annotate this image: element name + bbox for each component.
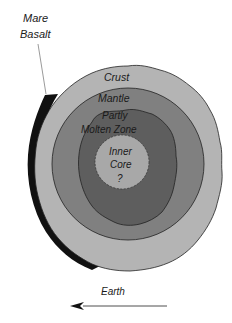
partly-molten-label-line2: Molten Zone <box>81 124 137 135</box>
inner-core-label-line1: Inner <box>109 146 132 157</box>
mare-basalt-leader-line <box>38 44 46 94</box>
mare-basalt-label-line1: Mare <box>23 12 48 24</box>
earth-label: Earth <box>101 286 125 297</box>
mantle-label: Mantle <box>98 92 130 104</box>
inner-core-label-line3: ? <box>117 173 123 184</box>
partly-molten-label-line1: Partly <box>102 110 129 121</box>
earth-direction-arrow-icon <box>70 302 167 310</box>
inner-core-label-line2: Core <box>110 159 132 170</box>
moon-interior-diagram: Mare Basalt Crust Mantle Partly Molten Z… <box>0 0 232 323</box>
crust-label: Crust <box>104 71 130 83</box>
mare-basalt-label-line2: Basalt <box>20 28 52 40</box>
